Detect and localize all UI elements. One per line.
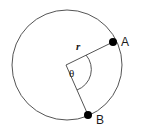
angle-arc-marker bbox=[77, 55, 91, 90]
point-a-dot bbox=[109, 38, 117, 46]
radius-label: r bbox=[76, 40, 81, 52]
geometry-figure: A B r θ bbox=[0, 0, 142, 132]
angle-theta-label: θ bbox=[69, 67, 74, 79]
circle-sector-diagram: A B r θ bbox=[0, 0, 142, 132]
point-a-label: A bbox=[121, 35, 129, 49]
point-b-label: B bbox=[96, 113, 104, 127]
point-b-dot bbox=[84, 111, 92, 119]
radius-line-to-a bbox=[66, 42, 113, 65]
